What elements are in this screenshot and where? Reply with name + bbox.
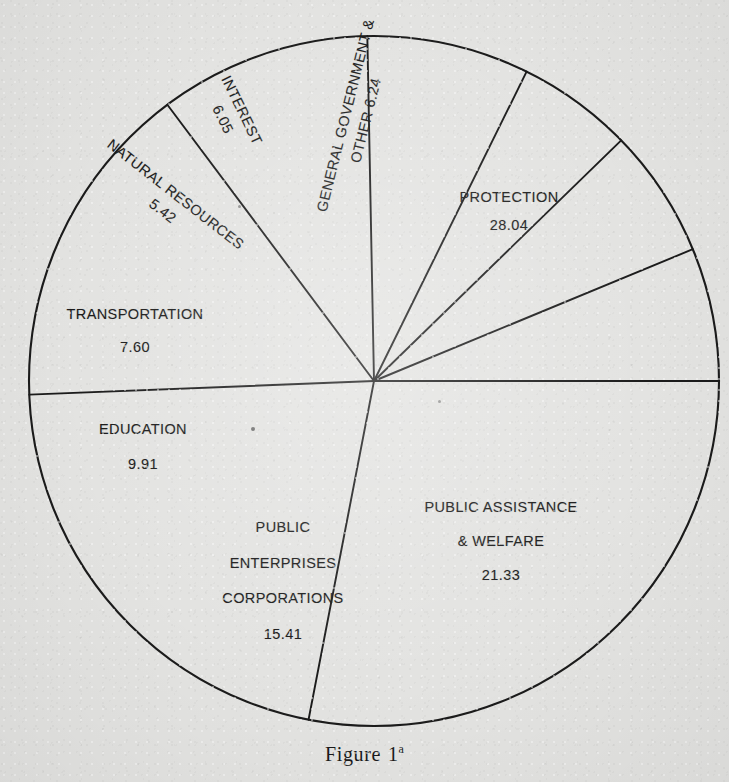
- pie-slice-divider-general-government-other: [374, 249, 693, 381]
- slice-value-education: 9.91: [48, 447, 238, 482]
- slice-label-public-assistance-line1: PUBLIC ASSISTANCE: [386, 490, 616, 524]
- pie-slices-group: [29, 36, 719, 726]
- figure-caption: Figure1a: [0, 742, 729, 766]
- figure-caption-superscript: a: [399, 742, 404, 756]
- slice-label-public-enterprises-line1: PUBLIC: [193, 510, 373, 546]
- slice-label-public-assistance-line2: & WELFARE: [386, 524, 616, 558]
- slice-label-public-assistance-welfare: PUBLIC ASSISTANCE & WELFARE 21.33: [386, 490, 616, 592]
- pie-slice-divider-public-enterprises-corporations: [29, 381, 374, 395]
- pie-chart: PROTECTION 28.04 PUBLIC ASSISTANCE & WEL…: [0, 0, 729, 782]
- slice-label-protection: PROTECTION 28.04: [414, 183, 604, 240]
- slice-label-protection-text: PROTECTION: [414, 183, 604, 211]
- slice-label-public-enterprises-corporations: PUBLIC ENTERPRISES CORPORATIONS 15.41: [193, 510, 373, 652]
- slice-label-public-enterprises-line3: CORPORATIONS: [193, 581, 373, 617]
- slice-value-transportation: 7.60: [35, 331, 235, 364]
- print-speck: [438, 400, 441, 403]
- slice-label-education-text: EDUCATION: [48, 412, 238, 447]
- print-speck: [251, 427, 255, 431]
- print-speck: [238, 205, 241, 208]
- slice-value-public-enterprises-corporations: 15.41: [193, 617, 373, 653]
- figure-caption-word: Figure: [325, 743, 381, 765]
- slice-label-transportation-text: TRANSPORTATION: [35, 298, 235, 331]
- slice-value-protection: 28.04: [414, 211, 604, 239]
- slice-value-public-assistance-welfare: 21.33: [386, 558, 616, 592]
- slice-label-transportation: TRANSPORTATION 7.60: [35, 298, 235, 365]
- figure-caption-number: 1: [388, 743, 399, 765]
- slice-label-public-enterprises-line2: ENTERPRISES: [193, 546, 373, 582]
- pie-slice-divider-interest: [374, 140, 621, 381]
- slice-label-education: EDUCATION 9.91: [48, 412, 238, 482]
